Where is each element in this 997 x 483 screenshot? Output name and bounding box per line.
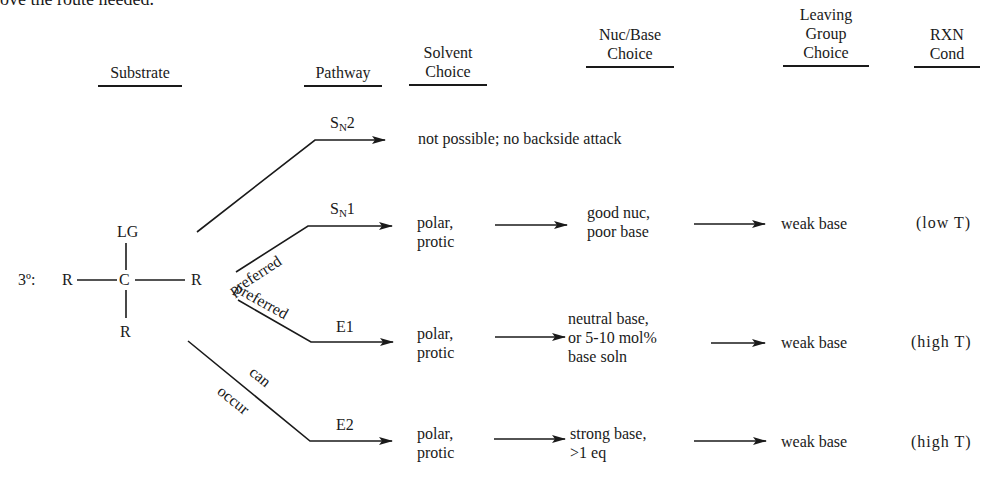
sn1-condition: (low T) [916, 213, 971, 232]
e1-nuc-line3: base soln [568, 347, 657, 366]
e2-solvent-line1: polar, [417, 424, 454, 443]
diagram-lines [0, 0, 997, 483]
substrate-right-r: R [191, 270, 202, 289]
e1-solvent-line1: polar, [417, 324, 454, 343]
substrate-center-c: C [119, 270, 130, 289]
sn1-solvent-line1: polar, [417, 213, 454, 232]
e2-nuc-line2: >1 eq [570, 443, 646, 462]
sn1-nuc-base: good nuc, poor base [587, 203, 650, 241]
pathway-sn1: SN1 [330, 199, 355, 218]
pathway-sn2-main: S [330, 114, 339, 131]
e2-condition: (high T) [911, 432, 972, 451]
pathway-sn1-num: 1 [347, 200, 355, 217]
e2-nuc-line1: strong base, [570, 424, 646, 443]
e1-nuc-base: neutral base, or 5-10 mol% base soln [568, 309, 657, 366]
e1-solvent: polar, protic [417, 324, 454, 362]
pathway-sn2-num: 2 [347, 114, 355, 131]
e2-nuc-base: strong base, >1 eq [570, 424, 646, 462]
sn1-solvent: polar, protic [417, 213, 454, 251]
pathway-sn2: SN2 [330, 113, 355, 132]
arrow-sn2 [197, 140, 385, 232]
pathway-sn1-sub: N [339, 207, 347, 219]
sn1-nuc-line2: poor base [587, 222, 650, 241]
sn1-solvent-line2: protic [417, 232, 454, 251]
e1-nuc-line2: or 5-10 mol% [568, 328, 657, 347]
e2-solvent-line2: protic [417, 443, 454, 462]
substrate-degree-label: 3º: [18, 270, 35, 289]
pathway-e2: E2 [336, 415, 354, 434]
sn2-result: not possible; no backside attack [418, 129, 622, 148]
pathway-sn2-sub: N [339, 121, 347, 133]
sn1-leaving-group: weak base [781, 214, 847, 233]
sn1-nuc-line1: good nuc, [587, 203, 650, 222]
e2-solvent: polar, protic [417, 424, 454, 462]
substrate-bottom-r: R [120, 322, 131, 341]
substrate-left-r: R [62, 270, 73, 289]
e1-condition: (high T) [911, 332, 972, 351]
pathway-e1: E1 [336, 317, 354, 336]
pathway-sn1-main: S [330, 200, 339, 217]
substrate-leaving-group: LG [117, 222, 138, 241]
e1-nuc-line1: neutral base, [568, 309, 657, 328]
e1-solvent-line2: protic [417, 343, 454, 362]
e1-leaving-group: weak base [781, 333, 847, 352]
e2-leaving-group: weak base [781, 432, 847, 451]
